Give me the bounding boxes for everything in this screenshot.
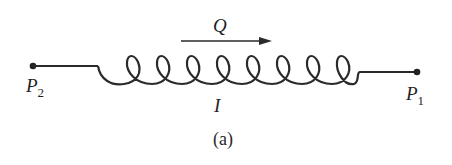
flow-label-q: Q <box>213 16 227 35</box>
inductor-coil <box>98 56 360 84</box>
terminal-p1-label: P1 <box>406 84 424 103</box>
current-label-i: I <box>214 96 220 115</box>
figure-caption: (a) <box>213 130 233 148</box>
terminal-p2-label: P2 <box>26 76 44 95</box>
flow-arrow-head-icon <box>259 37 272 45</box>
terminal-p1-dot <box>414 69 421 76</box>
